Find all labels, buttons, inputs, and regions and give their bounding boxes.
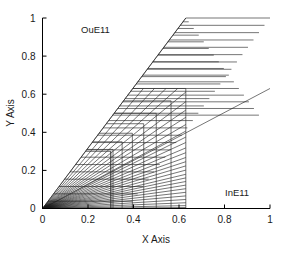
- y-tick-label: 0.6: [22, 89, 36, 100]
- ray: [43, 124, 186, 208]
- ray: [43, 102, 186, 209]
- y-tick-label: 0.2: [22, 165, 36, 176]
- y-tick-label: 0.8: [22, 51, 36, 62]
- x-tick-label: 1: [267, 214, 273, 225]
- y-tick-label: 0.4: [22, 127, 36, 138]
- chart-svg: 00.20.40.60.81 00.20.40.60.81 X Axis Y A…: [0, 0, 282, 254]
- x-axis-title: X Axis: [142, 234, 170, 245]
- figure-canvas: 00.20.40.60.81 00.20.40.60.81 X Axis Y A…: [0, 0, 282, 254]
- ray: [43, 88, 167, 208]
- staircase-rect: [114, 113, 156, 208]
- x-tick-labels: 00.20.40.60.81: [40, 214, 274, 225]
- x-tick-label: 0.6: [172, 214, 186, 225]
- staircase-group: [43, 88, 186, 208]
- y-tick-group: [43, 18, 47, 209]
- y-axis-title: Y Axis: [5, 99, 16, 127]
- x-tick-label: 0.4: [127, 214, 141, 225]
- staircase-rect: [99, 133, 132, 208]
- ray: [43, 92, 186, 208]
- outer-envelope-label: OuE11: [81, 24, 110, 35]
- x-tick-label: 0.8: [218, 214, 232, 225]
- plot-area: [43, 18, 271, 209]
- y-tick-label: 0: [30, 203, 36, 214]
- staircase-rect: [106, 124, 143, 209]
- staircase-rect: [123, 101, 171, 209]
- inner-envelope-label: InE11: [225, 187, 249, 198]
- x-tick-label: 0: [40, 214, 46, 225]
- x-tick-label: 0.2: [81, 214, 95, 225]
- y-tick-labels: 00.20.40.60.81: [22, 13, 36, 215]
- y-tick-label: 1: [30, 13, 36, 24]
- staircase-rect: [133, 88, 186, 208]
